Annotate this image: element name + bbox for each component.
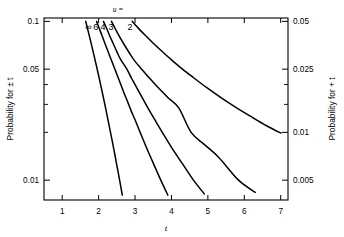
x-axis-ticks [62,18,281,200]
y-left-tick-label: 0.05 [23,65,39,74]
data-curve-0 [86,21,123,195]
y-right-tick-label: 0.05 [293,17,309,26]
y-axis-left-ticks [44,21,50,180]
x-tick-label: 7 [278,207,283,216]
y-right-tick-label: 0.005 [293,176,314,185]
data-curve-4 [132,21,281,133]
y-right-tick-label: 0.025 [293,65,314,74]
curve-label-1: 6 [93,22,98,32]
y-left-tick-label: 0.01 [23,176,39,185]
probability-chart: 1234567 0.10.050.01 0.050.0250.010.005 ∞… [0,0,344,237]
curve-label-0: ∞ [85,22,91,32]
x-tick-label: 5 [206,207,211,216]
x-tick-label: 3 [133,207,138,216]
curve-series-labels: ∞6432 [85,22,132,32]
y-axis-left-tick-labels: 0.10.050.01 [23,17,39,185]
y-axis-right-title: Probability for + t [327,77,337,141]
y-left-tick-label: 0.1 [28,17,40,26]
y-axis-right-ticks [282,21,288,180]
y-axis-right-tick-labels: 0.050.0250.010.005 [293,17,314,185]
curve-label-4: 2 [127,22,132,32]
chart-page: 1234567 0.10.050.01 0.050.0250.010.005 ∞… [0,0,344,237]
y-axis-left-title: Probability for ± t [5,77,15,140]
x-tick-label: 2 [96,207,101,216]
y-right-tick-label: 0.01 [293,128,309,137]
x-axis-tick-labels: 1234567 [60,207,284,216]
data-curves [86,21,281,195]
curve-label-2: 4 [100,22,105,32]
plot-frame [44,18,288,200]
data-curve-2 [103,21,204,193]
parameter-label: u = [113,5,124,14]
x-tick-label: 6 [242,207,247,216]
curve-label-3: 3 [109,22,114,32]
x-tick-label: 4 [169,207,174,216]
x-tick-label: 1 [60,207,65,216]
x-axis-title: t [165,223,168,233]
